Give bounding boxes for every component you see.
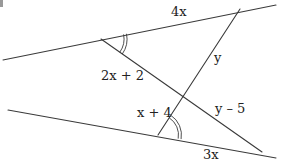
label-top-segment: 4x — [171, 5, 187, 18]
geometry-figure — [0, 0, 286, 166]
label-right-lower-transversal: y – 5 — [215, 102, 245, 115]
label-left-upper-transversal: 2x + 2 — [101, 69, 144, 82]
top-line — [3, 5, 276, 60]
double-arc-upper-icon — [120, 34, 127, 54]
label-bottom-segment: 3x — [203, 148, 219, 161]
label-left-lower-transversal: x + 4 — [137, 106, 172, 119]
label-right-upper-transversal: y — [214, 51, 221, 64]
